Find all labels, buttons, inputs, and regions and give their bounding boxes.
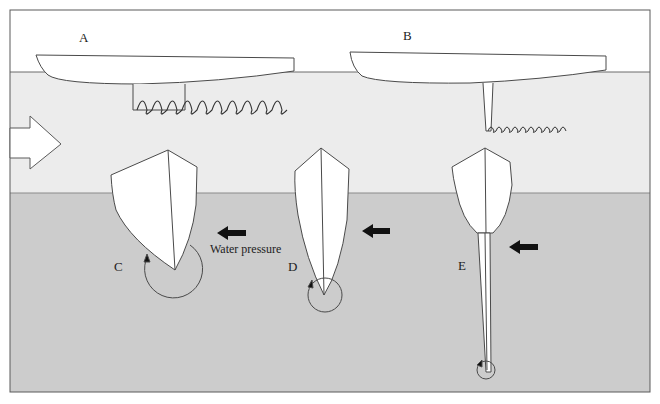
- label-c: C: [114, 259, 123, 275]
- label-e: E: [458, 258, 466, 274]
- label-d: D: [288, 259, 297, 275]
- label-b: B: [403, 28, 412, 44]
- keel-diagram: [0, 0, 660, 404]
- label-a: A: [79, 30, 88, 46]
- water-pressure-label: Water pressure: [210, 242, 281, 257]
